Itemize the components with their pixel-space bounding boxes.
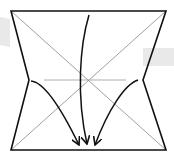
right-arrow	[95, 80, 138, 145]
left-arrow	[31, 81, 79, 145]
origami-diagram	[0, 0, 174, 163]
